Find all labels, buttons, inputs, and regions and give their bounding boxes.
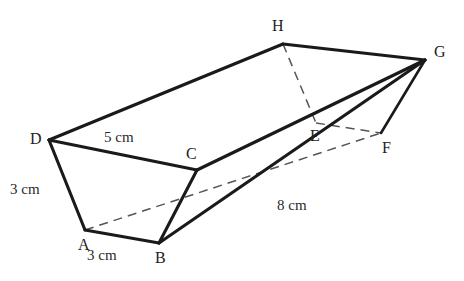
edge-H-E bbox=[283, 44, 316, 123]
length-DC: 5 cm bbox=[104, 130, 134, 145]
prism-svg bbox=[0, 0, 464, 281]
geometry-diagram: ABCDEFGH 5 cm3 cm3 cm8 cm bbox=[0, 0, 464, 281]
length-BG: 8 cm bbox=[277, 198, 307, 213]
vertex-label-C: C bbox=[186, 146, 197, 162]
edge-C-B bbox=[159, 170, 197, 243]
edge-A-B bbox=[85, 230, 159, 243]
edge-D-H bbox=[49, 44, 283, 140]
vertex-label-B: B bbox=[155, 250, 166, 266]
edge-D-A bbox=[49, 140, 85, 230]
edge-H-G bbox=[283, 44, 425, 60]
vertex-label-E: E bbox=[310, 128, 320, 144]
length-DA: 3 cm bbox=[10, 182, 40, 197]
length-AB: 3 cm bbox=[87, 248, 117, 263]
vertex-label-D: D bbox=[30, 131, 42, 147]
edge-A-E-F bbox=[85, 133, 381, 230]
vertex-label-G: G bbox=[434, 44, 446, 60]
vertex-label-F: F bbox=[382, 140, 391, 156]
vertex-label-H: H bbox=[272, 18, 284, 34]
